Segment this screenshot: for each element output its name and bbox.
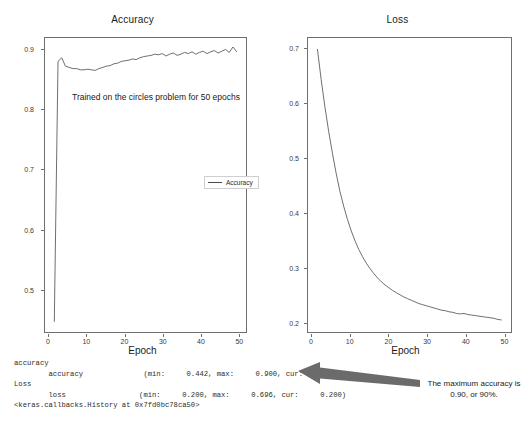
loss-x-axis-label: Epoch bbox=[273, 345, 530, 356]
callout-text: The maximum accuracy is 0.90, or 90%. bbox=[420, 378, 528, 400]
x-tick-label: 50 bbox=[501, 338, 509, 345]
x-tick-mark bbox=[466, 334, 467, 337]
output-line-history-repr: <keras.callbacks.History at 0x7fd0bc78ca… bbox=[14, 400, 199, 411]
x-tick-mark bbox=[86, 334, 87, 337]
x-tick-label: 0 bbox=[309, 338, 313, 345]
y-tick-label: 0.7 bbox=[24, 166, 34, 173]
x-tick-label: 50 bbox=[235, 338, 243, 345]
legend-line-swatch bbox=[208, 182, 222, 183]
loss-line-svg bbox=[308, 38, 511, 332]
y-tick-label: 0.3 bbox=[289, 265, 299, 272]
callout-arrow-icon bbox=[296, 360, 426, 394]
accuracy-x-axis-label: Epoch bbox=[10, 345, 275, 356]
x-tick-mark bbox=[163, 334, 164, 337]
accuracy-chart-title: Accuracy bbox=[0, 14, 265, 25]
matplotlib-figure: Accuracy 0.9 0.8 0.7 0.6 0.5 Trained on … bbox=[0, 0, 530, 355]
x-tick-mark bbox=[239, 334, 240, 337]
y-tick-label: 0.8 bbox=[24, 106, 34, 113]
y-tick-label: 0.6 bbox=[24, 226, 34, 233]
x-tick-label: 40 bbox=[462, 338, 470, 345]
loss-chart-title: Loss bbox=[265, 14, 530, 25]
x-tick-mark bbox=[427, 334, 428, 337]
y-tick-label: 0.6 bbox=[289, 100, 299, 107]
x-tick-mark bbox=[201, 334, 202, 337]
loss-y-axis: 0.7 0.6 0.5 0.4 0.3 0.2 bbox=[265, 37, 305, 333]
y-tick-label: 0.4 bbox=[289, 210, 299, 217]
x-tick-label: 10 bbox=[82, 338, 90, 345]
x-tick-mark bbox=[505, 334, 506, 337]
x-tick-mark bbox=[350, 334, 351, 337]
x-tick-label: 30 bbox=[159, 338, 167, 345]
y-tick-label: 0.2 bbox=[289, 320, 299, 327]
y-tick-label: 0.5 bbox=[289, 155, 299, 162]
y-tick-label: 0.7 bbox=[289, 45, 299, 52]
legend-label: Accuracy bbox=[226, 179, 253, 186]
x-tick-label: 20 bbox=[121, 338, 129, 345]
accuracy-y-axis: 0.9 0.8 0.7 0.6 0.5 bbox=[0, 37, 40, 333]
x-tick-mark bbox=[311, 334, 312, 337]
x-tick-label: 20 bbox=[384, 338, 392, 345]
x-tick-label: 40 bbox=[197, 338, 205, 345]
x-tick-mark bbox=[48, 334, 49, 337]
x-tick-label: 0 bbox=[46, 338, 50, 345]
accuracy-annotation: Trained on the circles problem for 50 ep… bbox=[72, 92, 240, 102]
output-line-accuracy-header: accuracy bbox=[14, 358, 49, 369]
x-tick-label: 30 bbox=[423, 338, 431, 345]
y-tick-label: 0.5 bbox=[24, 287, 34, 294]
accuracy-legend: Accuracy bbox=[204, 176, 259, 189]
loss-chart-panel: Loss 0.7 0.6 0.5 0.4 0.3 0.2 Loss 0 bbox=[265, 0, 530, 355]
loss-plot-area bbox=[307, 37, 512, 333]
x-tick-mark bbox=[388, 334, 389, 337]
y-tick-label: 0.9 bbox=[24, 45, 34, 52]
output-line-loss-header: Loss bbox=[14, 379, 31, 390]
x-tick-label: 10 bbox=[346, 338, 354, 345]
x-tick-mark bbox=[125, 334, 126, 337]
accuracy-chart-panel: Accuracy 0.9 0.8 0.7 0.6 0.5 Trained on … bbox=[0, 0, 265, 355]
